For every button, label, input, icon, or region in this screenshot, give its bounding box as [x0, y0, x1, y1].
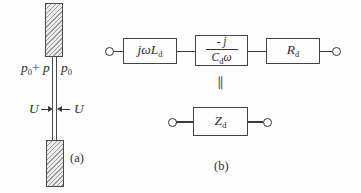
wire-3: [248, 51, 266, 52]
diagram-canvas: p0+ p p0 U U (a) jωLd - j Cdω Rd ∥ Zd (b…: [0, 0, 361, 193]
terminal-top-right-icon: [332, 47, 341, 56]
inductance-box: jωLd: [123, 38, 177, 64]
terminal-bottom-right-icon: [263, 118, 272, 127]
velocity-left-label: U: [29, 102, 39, 116]
capacitance-fraction: - j Cdω: [206, 35, 238, 66]
panel-a-caption: (a): [70, 152, 84, 165]
wire-2: [177, 51, 195, 52]
impedance-label: Zd: [215, 114, 227, 130]
pressure-left-term: p: [40, 60, 50, 75]
pressure-right-label: p0: [61, 61, 72, 77]
fraction-bar: [206, 49, 238, 50]
impedance-box: Zd: [193, 107, 248, 136]
pressure-left-plus: +: [32, 60, 40, 75]
equivalence-symbol: ∥: [217, 77, 224, 91]
wire-4: [320, 51, 332, 52]
inductance-label: jωLd: [137, 43, 162, 59]
capacitance-numerator: - j: [217, 35, 227, 47]
wire-6: [248, 121, 263, 122]
pressure-left-label: p0+ p: [21, 61, 50, 77]
panel-b-caption: (b): [214, 160, 229, 173]
velocity-right-arrow-line: [60, 109, 70, 110]
resistance-box: Rd: [266, 38, 320, 64]
wall-section-bottom: [46, 140, 64, 187]
velocity-right-label: U: [74, 102, 84, 116]
pressure-right-base: p: [61, 60, 68, 75]
capacitance-denominator: Cdω: [211, 51, 231, 66]
resistance-label: Rd: [287, 43, 300, 59]
capacitance-box: - j Cdω: [195, 35, 248, 66]
pressure-right-sub: 0: [68, 67, 72, 77]
wire-1: [114, 51, 124, 52]
slit-channel: [52, 56, 57, 140]
wall-section-top: [45, 3, 63, 57]
velocity-left-arrow-icon: [48, 106, 53, 112]
pressure-left-base: p: [21, 60, 28, 75]
wire-5: [176, 121, 193, 122]
